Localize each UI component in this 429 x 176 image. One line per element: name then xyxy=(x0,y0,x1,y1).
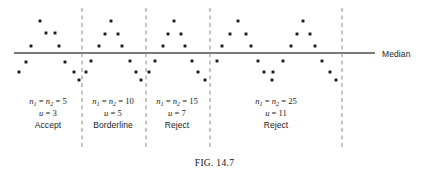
u-symbol-3: u xyxy=(168,108,172,118)
n1-subscript-2: 1 xyxy=(96,100,99,107)
figure-container: Median n1 = n2 = 5 u = 3 Accept n1 = n2 … xyxy=(0,0,429,176)
panel-sample-size-label-4: n1 = n2 = 25 xyxy=(216,96,336,108)
data-point-p1-8 xyxy=(64,61,67,64)
u-symbol-1: u xyxy=(39,108,43,118)
data-point-p1-6 xyxy=(54,32,57,35)
n2-subscript-3: 2 xyxy=(177,100,180,107)
equals-sign-3c: = xyxy=(175,108,180,118)
data-point-p1-2 xyxy=(25,61,28,64)
data-point-p4-15 xyxy=(309,33,312,36)
data-point-p2-9 xyxy=(135,71,138,74)
data-point-group xyxy=(18,20,338,82)
n-value-3: 15 xyxy=(189,96,198,106)
equals-sign-3b: = xyxy=(182,96,187,106)
data-point-p4-4 xyxy=(237,20,240,23)
n1-subscript-4: 1 xyxy=(259,100,262,107)
data-point-p4-16 xyxy=(314,45,317,48)
data-point-p1-1 xyxy=(18,71,21,74)
data-point-p4-19 xyxy=(335,79,338,82)
equals-sign-2c: = xyxy=(111,108,116,118)
data-point-p1-5 xyxy=(45,32,48,35)
n2-subscript-4: 2 xyxy=(276,100,279,107)
u-value-3: 7 xyxy=(182,108,186,118)
panel-u-statistic-label-4: u = 11 xyxy=(216,108,336,120)
data-point-p4-13 xyxy=(296,33,299,36)
data-point-p4-11 xyxy=(282,60,285,63)
data-point-p2-4 xyxy=(104,33,107,36)
data-point-p2-10 xyxy=(140,79,143,82)
data-point-p4-6 xyxy=(250,45,253,48)
equals-sign-1c: = xyxy=(46,108,51,118)
scatter-plot-svg xyxy=(0,0,429,176)
data-point-p4-3 xyxy=(229,33,232,36)
data-point-p4-14 xyxy=(302,20,305,23)
equals-sign-4a: = xyxy=(265,96,270,106)
data-point-p4-2 xyxy=(221,45,224,48)
data-point-p2-2 xyxy=(90,60,93,63)
data-point-p2-3 xyxy=(98,45,101,48)
equals-sign-1a: = xyxy=(39,96,44,106)
data-point-p4-12 xyxy=(290,45,293,48)
n1-symbol-1: n xyxy=(29,96,33,106)
data-point-p1-4 xyxy=(39,20,42,23)
n1-subscript-3: 1 xyxy=(160,100,163,107)
data-point-p4-8 xyxy=(263,71,266,74)
equals-sign-4b: = xyxy=(281,96,286,106)
data-point-p1-3 xyxy=(30,45,33,48)
data-point-p1-7 xyxy=(58,45,61,48)
data-point-p4-17 xyxy=(321,60,324,63)
data-point-p3-4 xyxy=(167,33,170,36)
data-point-p1-10 xyxy=(78,79,81,82)
data-point-p1-9 xyxy=(73,71,76,74)
data-point-p4-18 xyxy=(329,71,332,74)
figure-caption: FIG. 14.7 xyxy=(0,158,429,168)
data-point-p2-7 xyxy=(121,45,124,48)
data-point-p3-10 xyxy=(204,79,207,82)
data-point-p2-8 xyxy=(129,60,132,63)
data-point-p3-8 xyxy=(191,60,194,63)
equals-sign-2a: = xyxy=(102,96,107,106)
data-point-p4-10 xyxy=(271,79,274,82)
data-point-p2-1 xyxy=(85,71,88,74)
data-point-p3-2 xyxy=(154,60,157,63)
n1-subscript-1: 1 xyxy=(34,100,37,107)
data-point-p3-3 xyxy=(162,45,165,48)
n-value-4: 25 xyxy=(288,96,297,106)
equals-sign-3a: = xyxy=(166,96,171,106)
equals-sign-4c: = xyxy=(272,108,277,118)
panel-annotation-4: n1 = n2 = 25 u = 11 Reject xyxy=(216,96,336,131)
median-line-label: Median xyxy=(382,49,410,59)
data-point-p2-6 xyxy=(117,33,120,36)
n2-subscript-2: 2 xyxy=(113,100,116,107)
data-point-p3-9 xyxy=(197,71,200,74)
data-point-p3-6 xyxy=(180,33,183,36)
u-value-4: 11 xyxy=(279,108,287,118)
u-symbol-2: u xyxy=(104,108,108,118)
data-point-p4-9 xyxy=(272,71,275,74)
data-point-p3-1 xyxy=(148,71,151,74)
data-point-p3-5 xyxy=(173,20,176,23)
panel-verdict-4: Reject xyxy=(216,119,336,131)
u-symbol-4: u xyxy=(265,108,269,118)
data-point-p4-7 xyxy=(257,60,260,63)
data-point-p2-5 xyxy=(110,20,113,23)
data-point-p4-1 xyxy=(216,60,219,63)
data-point-p4-5 xyxy=(245,33,248,36)
data-point-p3-7 xyxy=(184,45,187,48)
